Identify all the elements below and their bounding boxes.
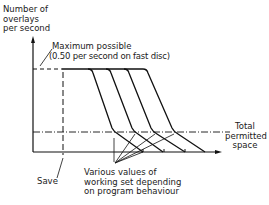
y-axis-label: Number of overlays per second xyxy=(3,5,50,34)
x-axis-arrow-icon xyxy=(215,150,222,154)
overlay-curves xyxy=(62,69,205,152)
working-set-label: Various values of working set depending … xyxy=(84,168,181,197)
y-axis-arrow-icon xyxy=(31,36,35,43)
save-leader xyxy=(57,158,63,178)
save-label: Save xyxy=(37,177,58,187)
total-permitted-space-label: Total permitted space xyxy=(225,122,265,151)
max-label-line2: (0.50 per second on fast disc) xyxy=(49,52,170,62)
